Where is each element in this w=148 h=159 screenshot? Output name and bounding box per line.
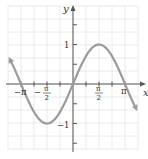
x-axis-label: x xyxy=(143,87,148,98)
tick-label-neg-one: −1 xyxy=(57,120,70,130)
tick-label-pi-half-num: π xyxy=(96,85,101,93)
y-axis-label: y xyxy=(62,3,69,14)
x-axis-arrow-icon xyxy=(140,82,146,87)
tick-label-neg-pi: −π xyxy=(14,87,27,97)
sine-graph: y x −π − π 2 π 2 π 1 −1 xyxy=(0,0,148,159)
tick-label-neg-pi-half-sign: − xyxy=(34,87,41,97)
tick-label-one: 1 xyxy=(64,40,69,50)
tick-label-pi-half-den: 2 xyxy=(97,94,101,102)
tick-label-pi: π xyxy=(121,86,127,96)
tick-label-neg-pi-half-num: π xyxy=(44,85,49,93)
tick-label-neg-pi-half-den: 2 xyxy=(45,94,49,102)
